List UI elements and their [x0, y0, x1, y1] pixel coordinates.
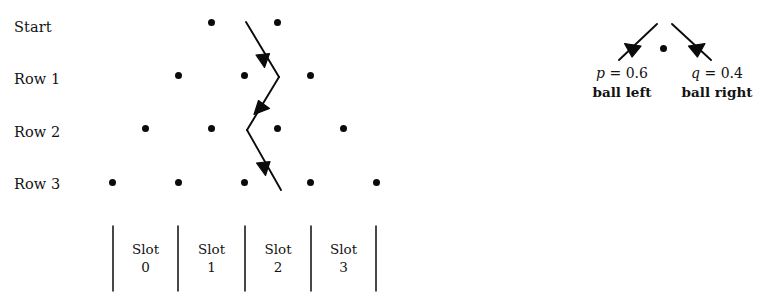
legend-left-text: p = 0.6 ball left	[577, 64, 667, 102]
slot-word: Slot	[178, 240, 245, 258]
slot-number: 1	[178, 258, 245, 276]
ball-path-segment-2	[247, 77, 279, 130]
legend-left-caption: ball left	[577, 83, 667, 102]
slot-word: Slot	[245, 240, 311, 258]
legend-right-equation: q = 0.4	[668, 64, 766, 83]
legend-right-caption: ball right	[668, 83, 766, 102]
slot-label-3: Slot 3	[311, 240, 376, 276]
slot-label-1: Slot 1	[178, 240, 245, 276]
legend-right-text: q = 0.4 ball right	[668, 64, 766, 102]
ball-path-segment-3	[247, 130, 281, 190]
slot-word: Slot	[113, 240, 178, 258]
slot-label-0: Slot 0	[113, 240, 178, 276]
legend-right-value: = 0.4	[700, 65, 743, 81]
slot-label-2: Slot 2	[245, 240, 311, 276]
legend-left-equation: p = 0.6	[577, 64, 667, 83]
slot-word: Slot	[311, 240, 376, 258]
legend-left-symbol: p	[596, 65, 605, 81]
slot-number: 2	[245, 258, 311, 276]
ball-path-segment-1	[246, 22, 279, 77]
legend-left-value: = 0.6	[605, 65, 648, 81]
slot-number: 0	[113, 258, 178, 276]
legend-arrow-left	[619, 24, 657, 60]
legend-right-symbol: q	[691, 65, 700, 81]
slot-number: 3	[311, 258, 376, 276]
legend-arrow-right	[672, 24, 711, 60]
galton-board-figure: Start Row 1 Row 2 Row 3	[0, 0, 771, 305]
